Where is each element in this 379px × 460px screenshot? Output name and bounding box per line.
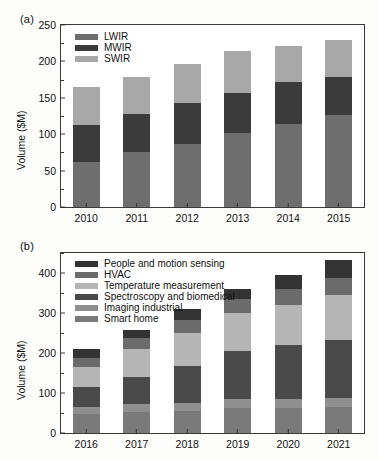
bar-segment — [123, 377, 150, 404]
x-tick-label: 2020 — [277, 433, 300, 450]
bar-segment — [275, 345, 302, 399]
bar-segment — [73, 387, 100, 407]
panel-a-plot-area: 050100150200250201020112012201320142015L… — [60, 24, 365, 208]
bar-2012 — [174, 25, 201, 207]
y-tick-minor — [61, 116, 64, 117]
bar-segment — [224, 133, 251, 207]
bar-segment — [123, 330, 150, 338]
legend-label: LWIR — [104, 31, 128, 42]
x-tick-label: 2011 — [125, 207, 148, 224]
x-tick-label: 2015 — [327, 207, 350, 224]
legend-swatch-icon — [75, 45, 98, 51]
bar-segment — [275, 399, 302, 408]
y-tick-label: 100 — [38, 128, 61, 140]
bar-segment — [174, 403, 201, 411]
bar-segment — [325, 260, 352, 278]
panel-a: (a) Volume ($M) 050100150200250201020112… — [0, 0, 379, 232]
legend-item-swir: SWIR — [75, 53, 132, 64]
bar-segment — [275, 124, 302, 207]
x-tick-label: 2019 — [226, 433, 249, 450]
legend-item-smart-home: Smart home — [75, 313, 235, 324]
legend: LWIRMWIRSWIR — [75, 31, 132, 64]
panel-a-y-axis-title: Volume ($M) — [15, 110, 27, 170]
legend-label: Temperature measurement — [104, 280, 224, 291]
legend-label: Imaging industrial — [104, 302, 182, 313]
x-tick-label: 2018 — [176, 433, 199, 450]
legend-item-temperature-measurement: Temperature measurement — [75, 280, 235, 291]
bar-segment — [123, 77, 150, 113]
y-tick-minor — [61, 43, 64, 44]
x-tick-label: 2014 — [277, 207, 300, 224]
y-tick-minor — [61, 253, 64, 254]
bar-segment — [325, 115, 352, 207]
legend-swatch-icon — [75, 272, 98, 278]
bar-segment — [325, 278, 352, 295]
bar-2015 — [325, 25, 352, 207]
bar-segment — [275, 289, 302, 305]
bar-segment — [275, 82, 302, 124]
bar-segment — [325, 398, 352, 408]
y-tick-minor — [61, 373, 64, 374]
y-tick-minor — [61, 293, 64, 294]
legend-label: HVAC — [104, 269, 131, 280]
bar-segment — [123, 152, 150, 207]
x-tick-label: 2010 — [75, 207, 98, 224]
bar-segment — [73, 125, 100, 161]
y-tick-minor — [61, 413, 64, 414]
legend-swatch-icon — [75, 283, 98, 289]
x-tick-label: 2012 — [176, 207, 199, 224]
panel-b: (b) Volume ($M) 010020030040020162017201… — [0, 228, 379, 460]
bar-segment — [73, 162, 100, 207]
bar-segment — [325, 295, 352, 340]
y-tick-minor — [61, 152, 64, 153]
bar-segment — [123, 404, 150, 412]
bar-segment — [123, 349, 150, 378]
bar-segment — [73, 367, 100, 388]
legend: People and motion sensingHVACTemperature… — [75, 258, 235, 324]
bar-segment — [174, 144, 201, 207]
bar-2021 — [325, 253, 352, 433]
legend-item-people-and-motion-sensing: People and motion sensing — [75, 258, 235, 269]
bar-segment — [224, 93, 251, 133]
legend-swatch-icon — [75, 56, 98, 62]
bar-segment — [73, 349, 100, 357]
y-tick-label: 50 — [44, 165, 61, 177]
y-tick-minor — [61, 333, 64, 334]
bar-segment — [275, 275, 302, 289]
y-tick-label: 300 — [38, 307, 61, 319]
panel-b-plot-area: 0100200300400201620172018201920202021Peo… — [60, 252, 365, 434]
legend-item-hvac: HVAC — [75, 269, 235, 280]
bar-segment — [73, 358, 100, 367]
legend-item-imaging-industrial: Imaging industrial — [75, 302, 235, 313]
x-tick-label: 2021 — [327, 433, 350, 450]
figure-stacked-bar-charts: (a) Volume ($M) 050100150200250201020112… — [0, 0, 379, 460]
bar-segment — [73, 87, 100, 126]
y-tick-label: 150 — [38, 92, 61, 104]
y-tick-minor — [61, 189, 64, 190]
legend-swatch-icon — [75, 294, 98, 300]
bar-segment — [123, 338, 150, 348]
legend-item-lwir: LWIR — [75, 31, 132, 42]
legend-label: Spectroscopy and biomedical — [104, 291, 235, 302]
x-tick-label: 2013 — [226, 207, 249, 224]
y-tick-label: 200 — [38, 55, 61, 67]
y-tick-label: 200 — [38, 347, 61, 359]
bar-segment — [174, 333, 201, 366]
y-tick-label: 250 — [38, 19, 61, 31]
x-tick-label: 2016 — [75, 433, 98, 450]
bar-2020 — [275, 253, 302, 433]
bar-segment — [325, 77, 352, 115]
bar-segment — [275, 305, 302, 345]
bar-segment — [174, 64, 201, 103]
bar-2014 — [275, 25, 302, 207]
bar-segment — [123, 114, 150, 153]
legend-swatch-icon — [75, 305, 98, 311]
bar-segment — [325, 340, 352, 398]
bar-segment — [275, 46, 302, 82]
legend-label: MWIR — [104, 42, 132, 53]
bar-segment — [73, 407, 100, 414]
bar-segment — [325, 40, 352, 77]
panel-a-label: (a) — [20, 13, 34, 25]
legend-item-spectroscopy-and-biomedical: Spectroscopy and biomedical — [75, 291, 235, 302]
x-tick-label: 2017 — [125, 433, 148, 450]
